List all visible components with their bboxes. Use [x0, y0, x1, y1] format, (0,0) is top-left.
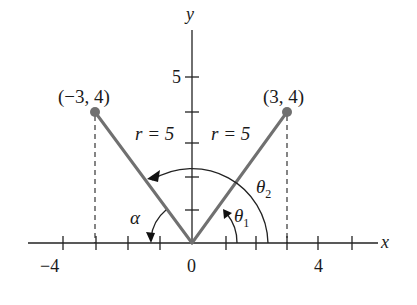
y-axis-label: y [184, 4, 194, 24]
theta1-label: θ1 [234, 205, 249, 230]
theta2-arrowhead-icon [147, 170, 160, 182]
y-axis: y 5 [172, 4, 199, 243]
x-axis: x −4 0 4 [28, 232, 389, 276]
theta2-label: θ2 [256, 176, 271, 201]
point-neg3-4 [90, 107, 100, 117]
alpha-arc [146, 210, 166, 243]
radius-label-left: r = 5 [135, 123, 174, 144]
x-tick-label-4: 4 [314, 256, 323, 276]
radius-label-right: r = 5 [211, 123, 250, 144]
point-label-3-4: (3, 4) [263, 86, 304, 108]
y-tick-label-5: 5 [172, 67, 181, 87]
x-tick-label-0: 0 [187, 256, 196, 276]
polar-angle-diagram: x −4 0 4 y 5 (−3, 4) (3, 4) r = 5 r = 5 [0, 0, 417, 305]
x-axis-label: x [380, 232, 389, 252]
point-3-4 [282, 107, 292, 117]
alpha-arrowhead-icon [146, 232, 155, 243]
x-tick-label-neg4: −4 [40, 256, 59, 276]
point-label-neg3-4: (−3, 4) [58, 86, 110, 108]
alpha-label: α [130, 207, 141, 228]
theta1-arrowhead-icon [223, 209, 232, 219]
